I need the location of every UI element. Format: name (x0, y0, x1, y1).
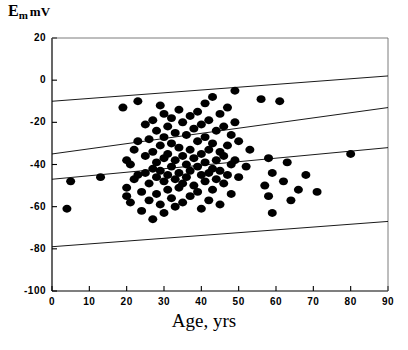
data-point (216, 167, 225, 175)
data-point (156, 201, 165, 209)
data-point (264, 192, 273, 200)
data-point (279, 177, 288, 185)
data-point (189, 154, 198, 162)
data-point (167, 139, 176, 147)
data-point (275, 97, 284, 105)
data-point (133, 97, 142, 105)
scatter-chart-figure: EmmV 200-20-40-60-80-100 010203040506070… (0, 0, 408, 350)
data-point (126, 198, 135, 206)
data-point (156, 167, 165, 175)
data-point (130, 146, 139, 154)
x-tick-label: 90 (375, 296, 401, 307)
data-point (145, 135, 154, 143)
data-point (174, 106, 183, 114)
data-point (148, 215, 157, 223)
data-point (171, 129, 180, 137)
data-point (201, 99, 210, 107)
data-point (141, 169, 150, 177)
data-point (201, 177, 210, 185)
data-point (137, 188, 146, 196)
data-point (193, 188, 202, 196)
data-point (216, 201, 225, 209)
data-point (286, 196, 295, 204)
upper-band (52, 76, 388, 101)
data-point (268, 169, 277, 177)
data-point (193, 163, 202, 171)
data-point (223, 171, 232, 179)
tickmark-layer (52, 38, 388, 291)
data-point (163, 123, 172, 131)
x-tick-label: 50 (226, 296, 252, 307)
data-point (182, 131, 191, 139)
data-point (208, 93, 217, 101)
x-tick-label: 60 (263, 296, 289, 307)
data-point (163, 150, 172, 158)
data-point (201, 158, 210, 166)
data-point (145, 196, 154, 204)
data-point (204, 116, 213, 124)
data-point (148, 148, 157, 156)
data-point (223, 142, 232, 150)
data-point (313, 188, 322, 196)
data-point (167, 114, 176, 122)
data-point (133, 137, 142, 145)
data-point (212, 175, 221, 183)
data-point (167, 194, 176, 202)
data-point (163, 186, 172, 194)
data-point (174, 169, 183, 177)
axis-layer (52, 38, 388, 291)
data-point (141, 120, 150, 128)
data-point (178, 118, 187, 126)
y-tick-label: 0 (2, 74, 46, 85)
data-point (242, 163, 251, 171)
data-point (178, 152, 187, 160)
data-point (122, 184, 131, 192)
data-point (141, 152, 150, 160)
data-point (186, 167, 195, 175)
x-tick-label: 70 (300, 296, 326, 307)
data-point (152, 158, 161, 166)
data-point (197, 120, 206, 128)
x-tick-label: 40 (188, 296, 214, 307)
x-tick-label: 80 (338, 296, 364, 307)
data-point (264, 154, 273, 162)
data-point (186, 146, 195, 154)
data-point (208, 139, 217, 147)
data-point (212, 127, 221, 135)
data-point (208, 186, 217, 194)
data-point (62, 205, 71, 213)
data-point (257, 95, 266, 103)
x-tick-label: 0 (39, 296, 65, 307)
x-tick-label: 10 (76, 296, 102, 307)
data-point (137, 207, 146, 215)
data-point (178, 198, 187, 206)
data-point (227, 131, 236, 139)
data-point (171, 156, 180, 164)
data-point (160, 110, 169, 118)
y-tick-label: -20 (2, 116, 46, 127)
data-point (219, 180, 228, 188)
y-tick-label: 20 (2, 32, 46, 43)
data-point (234, 137, 243, 145)
data-point (260, 182, 269, 190)
data-point (245, 146, 254, 154)
data-point (283, 158, 292, 166)
data-point (204, 196, 213, 204)
data-point (152, 127, 161, 135)
data-point (160, 133, 169, 141)
x-axis-title: Age, yrs (0, 310, 408, 332)
data-point (234, 173, 243, 181)
data-point (346, 150, 355, 158)
lower-band (52, 221, 388, 246)
data-point (66, 177, 75, 185)
data-point (212, 156, 221, 164)
data-point (294, 186, 303, 194)
data-point (201, 133, 210, 141)
data-point (156, 142, 165, 150)
data-point (145, 180, 154, 188)
data-point (126, 161, 135, 169)
x-tick-label: 20 (114, 296, 140, 307)
data-point (118, 104, 127, 112)
data-point (148, 116, 157, 124)
data-point (189, 125, 198, 133)
